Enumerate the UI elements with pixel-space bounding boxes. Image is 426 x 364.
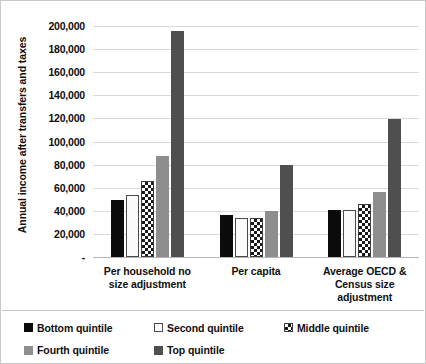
plot-area-wrapper: 200,000180,000160,000140,000120,000100,0… xyxy=(31,13,423,263)
legend-swatch-icon xyxy=(154,323,163,332)
legend-item-bottom-quintile[interactable]: Bottom quintile xyxy=(24,317,154,338)
y-axis-tick-2: 160,000 xyxy=(48,66,85,78)
x-axis-label-1: Per capita xyxy=(202,265,311,304)
y-axis-tick-6: 80,000 xyxy=(54,159,85,171)
y-axis-tick-0: 200,000 xyxy=(48,20,85,32)
chart-legend: Bottom quintileSecond quintileMiddle qui… xyxy=(2,310,424,362)
plot-area xyxy=(93,26,419,258)
legend-swatch-icon xyxy=(154,346,163,355)
y-axis-tick-4: 120,000 xyxy=(48,112,85,124)
legend-swatch-icon xyxy=(284,323,293,332)
legend-label: Fourth quintile xyxy=(37,344,109,356)
bar-group-2 xyxy=(310,26,419,257)
legend-label: Bottom quintile xyxy=(37,322,113,334)
bar-second-quintile-0[interactable] xyxy=(126,195,139,257)
legend-swatch-icon xyxy=(24,323,33,332)
legend-label: Middle quintile xyxy=(297,322,369,334)
legend-label: Second quintile xyxy=(167,322,244,334)
legend-item-top-quintile[interactable]: Top quintile xyxy=(154,340,284,361)
bar-middle-quintile-2[interactable] xyxy=(358,204,371,257)
x-axis-category-labels: Per household no size adjustmentPer capi… xyxy=(93,265,419,304)
legend-item-fourth-quintile[interactable]: Fourth quintile xyxy=(24,340,154,361)
bar-fourth-quintile-1[interactable] xyxy=(265,211,278,257)
legend-label: Top quintile xyxy=(167,344,225,356)
x-axis-label-2: Average OECD & Census size adjustment xyxy=(310,265,419,304)
y-axis-title: Annual income after transfers and taxes xyxy=(16,20,28,250)
y-axis-tick-labels: 200,000180,000160,000140,000120,000100,0… xyxy=(31,13,89,263)
bar-bottom-quintile-1[interactable] xyxy=(220,215,233,257)
legend-swatch-icon xyxy=(24,346,33,355)
legend-item-middle-quintile[interactable]: Middle quintile xyxy=(284,317,414,338)
y-axis-tick-9: 20,000 xyxy=(54,228,85,240)
bar-top-quintile-2[interactable] xyxy=(388,119,401,257)
bar-second-quintile-2[interactable] xyxy=(343,210,356,257)
bar-group-1 xyxy=(202,26,311,257)
y-axis-tick-7: 60,000 xyxy=(54,182,85,194)
bar-bottom-quintile-0[interactable] xyxy=(111,200,124,257)
y-axis-tick-3: 140,000 xyxy=(48,89,85,101)
bar-bottom-quintile-2[interactable] xyxy=(328,210,341,257)
y-axis-tick-1: 180,000 xyxy=(48,43,85,55)
bar-middle-quintile-0[interactable] xyxy=(141,181,154,257)
chart-container: Annual income after transfers and taxes … xyxy=(0,0,426,364)
y-axis-tick-10: - xyxy=(82,251,85,263)
bar-middle-quintile-1[interactable] xyxy=(250,218,263,257)
legend-item-second-quintile[interactable]: Second quintile xyxy=(154,317,284,338)
bar-fourth-quintile-0[interactable] xyxy=(156,156,169,257)
bar-top-quintile-1[interactable] xyxy=(280,165,293,257)
bar-top-quintile-0[interactable] xyxy=(171,31,184,257)
bar-fourth-quintile-2[interactable] xyxy=(373,192,386,257)
bar-groups xyxy=(93,26,419,257)
y-axis-tick-8: 40,000 xyxy=(54,205,85,217)
bar-second-quintile-1[interactable] xyxy=(235,218,248,257)
x-axis-label-0: Per household no size adjustment xyxy=(93,265,202,304)
y-axis-tick-5: 100,000 xyxy=(48,136,85,148)
bar-group-0 xyxy=(93,26,202,257)
